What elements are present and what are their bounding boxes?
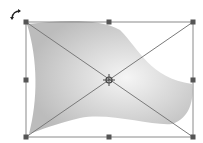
- handle-middle-right[interactable]: [191, 78, 196, 83]
- handle-middle-left[interactable]: [24, 78, 29, 83]
- handle-bottom-right[interactable]: [191, 135, 196, 140]
- handle-top-right[interactable]: [191, 20, 196, 25]
- rotate-icon[interactable]: [10, 9, 21, 20]
- handle-bottom-middle[interactable]: [107, 135, 112, 140]
- handle-bottom-left[interactable]: [24, 135, 29, 140]
- canvas: [0, 0, 203, 143]
- handle-top-middle[interactable]: [107, 20, 112, 25]
- handle-top-left[interactable]: [24, 20, 29, 25]
